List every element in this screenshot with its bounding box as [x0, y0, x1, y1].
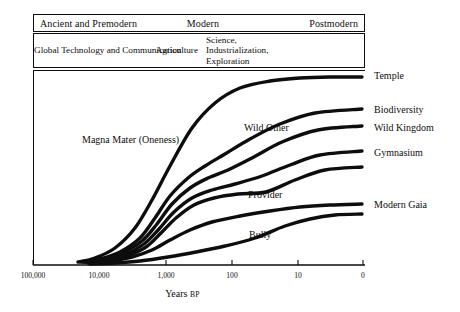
curve-label-wild-kingdom: Wild Kingdom — [374, 122, 434, 133]
curve-label-biodiversity: Biodiversity — [374, 104, 423, 115]
x-tick-label-2: 1,000 — [157, 271, 174, 280]
x-tick-label-5: 0 — [361, 271, 365, 280]
annotation-magna-mater: Magna Mater (Oneness) — [82, 134, 179, 145]
x-axis-title: Years BP — [0, 288, 365, 299]
curve-label-temple: Temple — [374, 70, 404, 81]
annotation-bully: Bully — [249, 229, 271, 240]
x-tick-label-4: 10 — [294, 271, 302, 280]
x-axis-title-text: Years — [165, 288, 187, 299]
curve-biodiversity — [80, 109, 362, 262]
x-axis-title-suffix: BP — [190, 290, 200, 299]
annotation-provider: Provider — [248, 189, 282, 200]
x-tick-label-1: 10,000 — [89, 271, 110, 280]
x-tick-label-3: 100 — [226, 271, 237, 280]
figure-root: Ancient and Premodern Modern Postmodern … — [0, 0, 460, 312]
curve-label-gymnasium: Gymnasium — [374, 147, 423, 158]
annotation-wild-other: Wild Other — [244, 122, 289, 133]
x-tick-label-0: 100,000 — [21, 271, 46, 280]
curve-temple — [78, 77, 362, 262]
curve-label-modern-gaia: Modern Gaia — [374, 199, 427, 210]
